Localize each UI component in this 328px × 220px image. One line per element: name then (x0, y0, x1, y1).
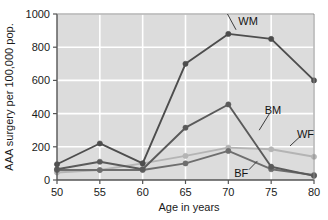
x-axis-title: Age in years (158, 201, 220, 213)
x-tick-label: 80 (308, 186, 320, 198)
data-point (226, 102, 231, 107)
y-tick-label: 600 (32, 74, 50, 86)
x-axis-ticks: 50556065707580 (51, 180, 320, 198)
x-tick-label: 75 (265, 186, 277, 198)
y-axis-title: AAA surgery per 100,000 pop. (3, 23, 15, 170)
data-point (269, 164, 274, 169)
data-point (269, 147, 274, 152)
y-tick-label: 0 (44, 174, 50, 186)
data-point (97, 141, 102, 146)
aaa-surgery-line-chart: 02004006008001000 50556065707580 AAA sur… (0, 0, 328, 220)
data-point (140, 167, 145, 172)
series-label-wm: WM (238, 15, 258, 27)
data-point (226, 31, 231, 36)
data-point (269, 36, 274, 41)
series-label-bf: BF (234, 167, 248, 179)
x-tick-label: 65 (179, 186, 191, 198)
y-tick-label: 1000 (26, 8, 50, 20)
x-tick-label: 70 (222, 186, 234, 198)
data-point (97, 167, 102, 172)
x-tick-label: 60 (137, 186, 149, 198)
x-tick-label: 55 (94, 186, 106, 198)
data-point (226, 148, 231, 153)
chart-container: 02004006008001000 50556065707580 AAA sur… (0, 0, 328, 220)
y-tick-label: 200 (32, 141, 50, 153)
y-axis-ticks: 02004006008001000 (26, 8, 57, 186)
data-point (183, 153, 188, 158)
data-point (140, 161, 145, 166)
series-label-bm: BM (265, 104, 282, 116)
data-point (183, 125, 188, 130)
y-tick-label: 400 (32, 108, 50, 120)
data-point (183, 61, 188, 66)
x-tick-label: 50 (51, 186, 63, 198)
y-tick-label: 800 (32, 41, 50, 53)
data-point (97, 159, 102, 164)
series-label-wf: WF (297, 128, 314, 140)
data-point (183, 161, 188, 166)
